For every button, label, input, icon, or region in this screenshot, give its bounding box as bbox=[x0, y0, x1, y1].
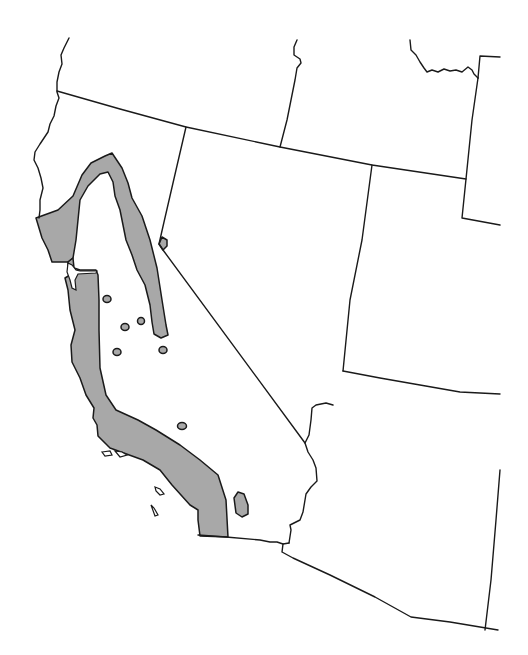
west-coast-north bbox=[34, 38, 69, 218]
coast-range-band bbox=[65, 258, 228, 537]
species-range-areas bbox=[36, 153, 248, 537]
peninsular-range-patch bbox=[234, 492, 248, 517]
population-dot bbox=[113, 349, 121, 356]
nevada-arizona-border bbox=[289, 403, 333, 543]
utah-arizona-border bbox=[343, 371, 500, 394]
california-nevada-border bbox=[159, 127, 305, 443]
channel-island bbox=[155, 487, 164, 495]
population-dot bbox=[138, 318, 145, 325]
range-map bbox=[0, 0, 528, 655]
wyoming-border bbox=[478, 56, 500, 78]
population-dot bbox=[121, 324, 129, 331]
idaho-utah-east-border bbox=[462, 78, 500, 225]
population-dot bbox=[159, 347, 167, 354]
population-dot bbox=[103, 296, 111, 303]
population-dot bbox=[178, 423, 187, 430]
montana-idaho-border bbox=[410, 40, 478, 78]
channel-island bbox=[151, 505, 158, 516]
nevada-utah-border bbox=[343, 165, 372, 371]
california-arizona-border bbox=[198, 535, 289, 544]
state-borders bbox=[34, 38, 500, 630]
arizona-mexico-border bbox=[282, 544, 498, 630]
arizona-newmexico-border bbox=[485, 470, 500, 630]
channel-island bbox=[102, 451, 112, 456]
idaho-oregon-border bbox=[280, 40, 301, 147]
sierra-nevada-range-band bbox=[36, 153, 168, 338]
